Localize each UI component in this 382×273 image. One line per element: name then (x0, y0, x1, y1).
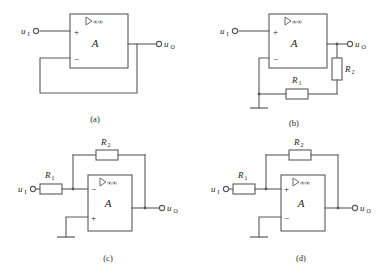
opamp-plus-sign-b: + (273, 27, 278, 37)
junction-output-b (336, 43, 339, 46)
input-terminal-b (232, 28, 237, 33)
resistor-r1-label-b: R (291, 75, 298, 85)
ground-symbol-b (250, 94, 268, 108)
resistor-r1-sub-b: 1 (299, 80, 302, 86)
input-label-sub-b: I (227, 31, 229, 37)
input-label-a: u (21, 26, 26, 36)
opamp-gain-label-d: A (297, 197, 305, 209)
panel-caption-a: (a) (90, 114, 100, 124)
output-terminal-b (347, 41, 352, 46)
circuit-panel-a: ∞∞ A + − u I u O (a) (0, 0, 191, 136)
output-terminal-a (156, 41, 161, 46)
infinity-glyph-d: ∞∞ (300, 179, 310, 187)
resistor-r2-sub-c: 2 (108, 142, 111, 148)
infinity-glyph-a: ∞∞ (93, 18, 103, 26)
input-terminal-c (30, 186, 35, 191)
output-label-d: u (360, 203, 365, 213)
resistor-r2-body-b (332, 58, 342, 80)
figure-canvas: ∞∞ A + − u I u O (a) (0, 0, 382, 273)
output-label-a: u (164, 39, 169, 49)
resistor-r2-body-c (96, 150, 118, 160)
ground-symbol-c (57, 217, 88, 237)
opamp-plus-sign-a: + (74, 27, 79, 37)
opamp-gain-label-b: A (290, 37, 298, 49)
input-label-sub-d: I (218, 189, 220, 195)
ground-symbol-d (250, 217, 281, 237)
input-label-c: u (18, 184, 23, 194)
output-label-sub-c: O (174, 208, 179, 214)
output-terminal-c (159, 205, 164, 210)
panel-caption-b: (b) (289, 118, 299, 128)
resistor-r2-label-d: R (293, 137, 300, 147)
opamp-gain-label-a: A (91, 37, 99, 49)
opamp-minus-sign-b: − (273, 54, 278, 64)
resistor-r1-sub-d: 1 (245, 175, 248, 181)
resistor-r1-body-b (286, 89, 308, 99)
resistor-r2-label-b: R (344, 64, 351, 74)
opamp-minus-sign-a: − (74, 54, 79, 64)
output-terminal-d (352, 205, 357, 210)
input-terminal-a (33, 28, 38, 33)
input-label-b: u (220, 26, 225, 36)
circuit-panel-d: ∞∞ A + − u I R 1 R 2 (191, 137, 382, 273)
input-label-d: u (211, 184, 216, 194)
opamp-minus-sign-d: − (284, 213, 289, 223)
infinity-glyph-b: ∞∞ (292, 18, 302, 26)
opamp-gain-label-c: A (104, 197, 112, 209)
opamp-plus-sign-d: + (284, 184, 289, 194)
resistor-r2-sub-d: 2 (301, 142, 304, 148)
input-label-sub-a: I (28, 31, 30, 37)
output-label-sub-b: O (362, 44, 367, 50)
resistor-r2-label-c: R (100, 137, 107, 147)
output-label-c: u (167, 203, 172, 213)
output-label-sub-d: O (367, 208, 372, 214)
input-label-sub-c: I (25, 189, 27, 195)
resistor-r1-sub-c: 1 (52, 175, 55, 181)
resistor-r2-sub-b: 2 (352, 69, 355, 75)
circuit-panel-b: ∞∞ A + − u I u O R 2 R (191, 0, 382, 136)
circuit-panel-c: ∞∞ A − + u I R 1 R 2 (0, 137, 191, 273)
opamp-plus-sign-c: + (91, 213, 96, 223)
output-label-sub-a: O (171, 44, 176, 50)
panel-caption-d: (d) (296, 253, 306, 263)
resistor-r1-label-d: R (237, 170, 244, 180)
resistor-r1-body-d (233, 184, 255, 194)
infinity-glyph-c: ∞∞ (107, 179, 117, 187)
input-terminal-d (223, 186, 228, 191)
opamp-minus-sign-c: − (91, 184, 96, 194)
resistor-r1-body-c (40, 184, 62, 194)
resistor-r1-label-c: R (44, 170, 51, 180)
output-label-b: u (355, 39, 360, 49)
resistor-r2-body-d (289, 150, 311, 160)
feedback-wire-b (259, 58, 269, 94)
panel-caption-c: (c) (103, 253, 113, 263)
